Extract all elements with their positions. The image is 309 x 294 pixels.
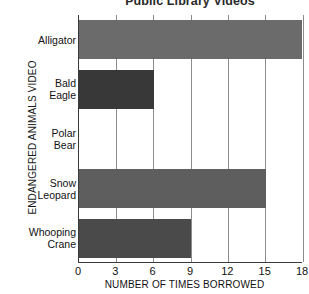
bar-row — [79, 219, 302, 258]
y-tick-label-line: Crane — [14, 238, 76, 250]
y-tick-label-line: Eagle — [14, 89, 76, 101]
x-tick-label: 9 — [177, 265, 203, 277]
chart-title: Public Library Videos — [78, 0, 302, 8]
x-tick-label: 15 — [252, 265, 278, 277]
x-tick-label: 3 — [102, 265, 128, 277]
x-tick-label: 0 — [65, 265, 91, 277]
y-tick-label-polar-bear: PolarBear — [14, 127, 76, 151]
bar-row — [79, 169, 302, 208]
y-tick-label-line: Whooping — [14, 226, 76, 238]
y-tick-label-bald-eagle: BaldEagle — [14, 77, 76, 101]
plot-area — [78, 15, 302, 263]
y-tick-label-whooping-crane: WhoopingCrane — [14, 226, 76, 250]
bar-row — [79, 120, 302, 159]
y-tick-label-line: Leopard — [14, 189, 76, 201]
y-axis-tick-labels: AlligatorBaldEaglePolarBearSnowLeopardWh… — [14, 15, 76, 263]
bar-chart: Public Library Videos ENDANGERED ANIMALS… — [0, 0, 309, 294]
x-tick-label: 18 — [289, 265, 309, 277]
y-tick-label-line: Bald — [14, 77, 76, 89]
x-axis-tick-labels: 0369121518 — [78, 265, 302, 279]
bar-whooping-crane — [79, 219, 191, 258]
y-tick-label-alligator: Alligator — [14, 34, 76, 46]
bar-row — [79, 20, 302, 59]
x-tick-label: 12 — [214, 265, 240, 277]
y-tick-label-line: Bear — [14, 139, 76, 151]
y-tick-label-line: Polar — [14, 127, 76, 139]
bar-snow-leopard — [79, 169, 266, 208]
x-axis-title: NUMBER OF TIMES BORROWED — [60, 279, 309, 290]
bar-row — [79, 70, 302, 109]
y-tick-label-line: Snow — [14, 177, 76, 189]
y-tick-label-line: Alligator — [14, 34, 76, 46]
y-tick-label-snow-leopard: SnowLeopard — [14, 177, 76, 201]
bar-alligator — [79, 20, 302, 59]
gridline — [303, 15, 304, 262]
x-tick-label: 6 — [140, 265, 166, 277]
bar-bald-eagle — [79, 70, 154, 109]
